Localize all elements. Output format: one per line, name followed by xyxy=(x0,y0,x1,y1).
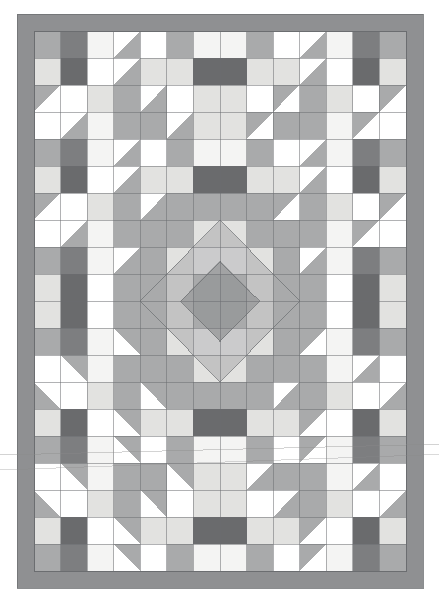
cell-solid xyxy=(300,463,327,490)
cell-solid xyxy=(353,544,380,571)
quilt-cell xyxy=(87,274,114,301)
quilt-cell xyxy=(379,436,406,463)
quilt-cell xyxy=(379,112,406,139)
cell-solid xyxy=(87,139,114,166)
quilt-cell xyxy=(87,139,114,166)
quilt-cell xyxy=(326,382,353,409)
cell-solid xyxy=(87,112,114,139)
quilt-cell xyxy=(326,139,353,166)
quilt-cell xyxy=(353,31,380,58)
cell-solid xyxy=(167,544,194,571)
quilt-cell xyxy=(326,463,353,490)
quilt-cell xyxy=(300,517,327,544)
quilt-cell xyxy=(273,328,300,355)
quilt-cell xyxy=(300,409,327,436)
quilt-cell xyxy=(140,544,167,571)
cell-solid xyxy=(273,328,300,355)
quilt-cell xyxy=(61,139,88,166)
quilt-cell xyxy=(61,112,88,139)
quilt-cell xyxy=(247,382,274,409)
quilt-cell xyxy=(300,355,327,382)
cell-solid xyxy=(167,193,194,220)
quilt-cell xyxy=(34,31,61,58)
cell-solid xyxy=(61,382,88,409)
quilt-cell xyxy=(114,220,141,247)
quilt-cell xyxy=(167,85,194,112)
quilt-cell xyxy=(220,85,247,112)
cell-solid xyxy=(87,328,114,355)
quilt-cell xyxy=(247,31,274,58)
quilt-cell xyxy=(114,139,141,166)
quilt-cell xyxy=(61,301,88,328)
quilt-cell xyxy=(140,166,167,193)
quilt-cell xyxy=(34,193,61,220)
quilt-cell xyxy=(300,328,327,355)
cell-solid xyxy=(353,328,380,355)
quilt-cell xyxy=(87,436,114,463)
quilt-cell xyxy=(87,193,114,220)
cell-solid xyxy=(326,409,353,436)
cell-solid xyxy=(326,247,353,274)
quilt-cell xyxy=(220,112,247,139)
cell-solid xyxy=(114,112,141,139)
quilt-cell xyxy=(273,517,300,544)
cell-solid xyxy=(140,166,167,193)
quilt-cell xyxy=(34,409,61,436)
cell-solid xyxy=(34,31,61,58)
quilt-cell xyxy=(247,220,274,247)
cell-solid xyxy=(247,85,274,112)
quilt-cell xyxy=(87,544,114,571)
cell-solid xyxy=(61,436,88,463)
cell-solid xyxy=(140,544,167,571)
cell-solid xyxy=(353,517,380,544)
cell-solid xyxy=(326,31,353,58)
cell-solid xyxy=(61,517,88,544)
quilt-cell xyxy=(379,58,406,85)
quilt-cell xyxy=(193,58,220,85)
quilt-cell xyxy=(379,328,406,355)
quilt-diagram-svg xyxy=(0,0,439,616)
cell-solid xyxy=(193,112,220,139)
cell-solid xyxy=(353,247,380,274)
cell-solid xyxy=(193,490,220,517)
quilt-cell xyxy=(220,409,247,436)
cell-solid xyxy=(167,490,194,517)
cell-solid xyxy=(247,220,274,247)
cell-solid xyxy=(140,328,167,355)
quilt-cell xyxy=(326,355,353,382)
quilt-cell xyxy=(167,517,194,544)
quilt-cell xyxy=(300,85,327,112)
cell-solid xyxy=(300,112,327,139)
quilt-cell xyxy=(326,409,353,436)
cell-solid xyxy=(140,355,167,382)
quilt-cell xyxy=(114,328,141,355)
cell-solid xyxy=(300,490,327,517)
quilt-cell xyxy=(220,58,247,85)
cell-solid xyxy=(167,382,194,409)
quilt-cell xyxy=(326,166,353,193)
quilt-cell xyxy=(34,85,61,112)
cell-solid xyxy=(193,58,220,85)
cell-solid xyxy=(87,436,114,463)
quilt-cell xyxy=(247,490,274,517)
quilt-cell xyxy=(61,517,88,544)
quilt-cell xyxy=(247,517,274,544)
quilt-cell xyxy=(247,166,274,193)
cell-solid xyxy=(87,517,114,544)
quilt-cell xyxy=(379,220,406,247)
cell-solid xyxy=(167,355,194,382)
quilt-cell xyxy=(379,301,406,328)
cell-solid xyxy=(140,436,167,463)
quilt-cell xyxy=(326,436,353,463)
quilt-cell xyxy=(167,382,194,409)
quilt-cell xyxy=(379,463,406,490)
quilt-cell xyxy=(34,490,61,517)
cell-solid xyxy=(114,355,141,382)
quilt-cell xyxy=(326,112,353,139)
quilt-cell xyxy=(87,247,114,274)
quilt-cell xyxy=(379,355,406,382)
quilt-cell xyxy=(140,220,167,247)
cell-solid xyxy=(326,58,353,85)
cell-solid xyxy=(193,139,220,166)
cell-solid xyxy=(220,193,247,220)
